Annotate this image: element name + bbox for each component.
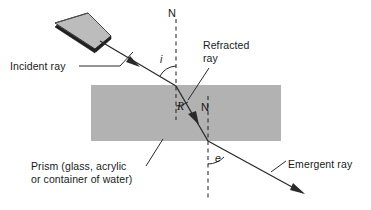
normal-top-label: N [168,7,176,19]
emergent-ray-label: Emergent ray [288,158,352,170]
emergent-ray-arrowhead [290,183,305,194]
normal-bottom-label: N [201,101,209,113]
incident-ray [100,41,176,86]
emergent-ray-leader [271,161,286,172]
prism-block [91,85,281,141]
incident-ray-leader [79,52,133,66]
refraction-diagram: N N i R e Incident ray Refracted ray Eme… [0,0,371,210]
angle-of-incidence-label: i [160,53,162,65]
angle-of-emergence-label: e [215,152,221,164]
angle-arc-incidence [160,66,176,76]
incident-ray-label: Incident ray [10,60,65,72]
prism-leader [146,139,163,166]
refracted-ray-label: Refracted ray [203,39,249,65]
ray-box [55,13,111,53]
incident-ray-line [100,41,176,86]
prism-label: Prism (glass, acrylic or container of wa… [31,160,132,186]
angle-of-refraction-label: R [177,100,184,112]
